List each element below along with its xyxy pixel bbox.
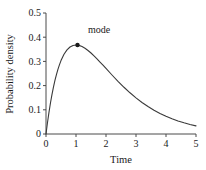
y-axis-tick-labels: 00.10.20.30.40.5 — [29, 7, 42, 139]
y-tick-label: 0.3 — [29, 56, 42, 67]
y-tick-label: 0 — [36, 128, 41, 139]
figure-container: 00.10.20.30.40.5 012345 mode Time Probab… — [0, 0, 206, 170]
x-tick-label: 4 — [164, 138, 169, 149]
x-tick-label: 1 — [74, 138, 79, 149]
y-tick-label: 0.4 — [29, 32, 42, 43]
y-tick-label: 0.5 — [29, 7, 42, 18]
mode-point-marker — [75, 43, 79, 47]
probability-density-chart: 00.10.20.30.40.5 012345 mode Time Probab… — [0, 0, 206, 170]
density-curve-line — [46, 45, 196, 134]
x-tick-label: 0 — [44, 138, 49, 149]
y-tick-label: 0.2 — [29, 80, 42, 91]
mode-annotation-label: mode — [88, 24, 111, 35]
x-axis-tick-labels: 012345 — [44, 138, 199, 149]
x-axis-title: Time — [110, 154, 132, 165]
x-tick-label: 3 — [134, 138, 139, 149]
y-tick-label: 0.1 — [29, 104, 42, 115]
x-tick-label: 5 — [194, 138, 199, 149]
y-axis-title: Probability density — [4, 33, 15, 113]
x-tick-label: 2 — [104, 138, 109, 149]
